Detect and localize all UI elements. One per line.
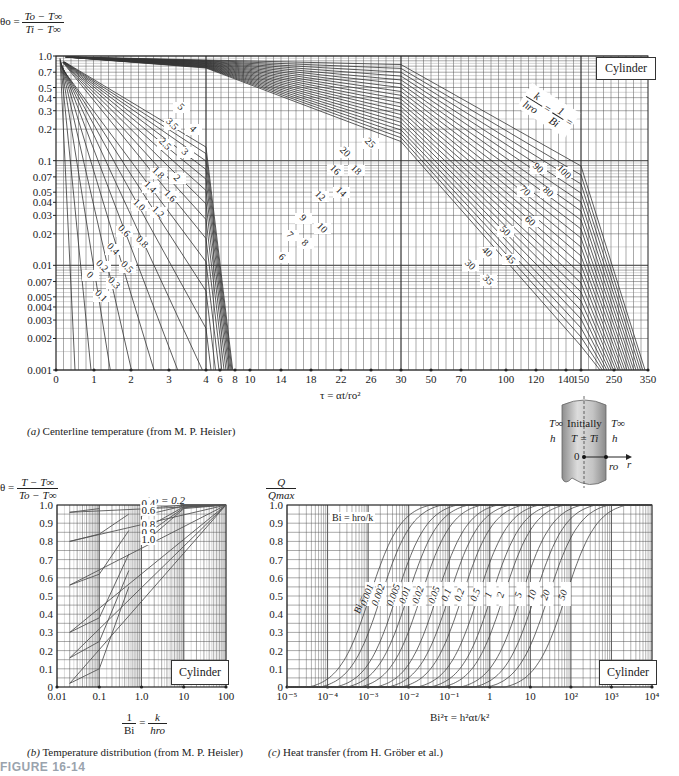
panel-c-bi-note: Bi = hro/k: [330, 512, 375, 523]
diagram-left-h: h: [550, 432, 556, 444]
figure-label: FIGURE 16-14: [0, 760, 85, 774]
panel-c-caption: (c) Heat transfer (from H. Gröber et al.…: [268, 746, 443, 758]
panel-b-caption-prefix: (b): [27, 746, 40, 758]
panel-c-ylabel-den: Qmax: [266, 489, 296, 501]
diagram-initially: Initially: [567, 417, 602, 429]
cylinder-diagram: [0, 0, 679, 776]
panel-b-caption: (b) Temperature distribution (from M. P.…: [27, 746, 243, 758]
origin-point: [582, 455, 586, 459]
panel-c-caption-title: Heat transfer (from H. Gröber et al.): [283, 746, 443, 758]
diagram-radius: ro: [609, 460, 618, 472]
panel-c-ylabel-num: Q: [266, 476, 296, 489]
diagram-origin: 0: [574, 450, 580, 462]
panel-b-xlabel-den: Bi: [122, 724, 136, 736]
panel-b-xlabel-den2: hro: [148, 724, 167, 736]
panel-b-xlabel-num2: k: [148, 711, 167, 724]
panel-c-caption-prefix: (c): [268, 746, 280, 758]
panel-b-xlabel: 1Bi = khro: [122, 711, 167, 736]
panel-c-legend-box: Cylinder: [599, 660, 657, 685]
diagram-r-axis: r: [627, 458, 631, 470]
diagram-right-T: T∞: [611, 417, 625, 429]
panel-b-ylabel-num: T − T∞: [17, 476, 59, 489]
panel-b-xlabel-eq: =: [139, 716, 145, 728]
panel-b-ylabel-den: To − T∞: [17, 489, 59, 501]
radius-point: [604, 455, 608, 459]
panel-c-xlabel: Bi²τ = h²αt/k²: [430, 711, 489, 723]
diagram-right-h: h: [612, 432, 618, 444]
diagram-T-equals-Ti: T = Ti: [571, 432, 598, 444]
panel-b-caption-title: Temperature distribution (from M. P. Hei…: [42, 746, 243, 758]
panel-b-ylabel-lhs: θ =: [0, 481, 14, 493]
panel-b-xlabel-num: 1: [122, 711, 136, 724]
panel-b-legend-box: Cylinder: [171, 660, 229, 685]
diagram-left-T: T∞: [549, 417, 563, 429]
panel-c-ylabel: Q Qmax: [266, 476, 296, 501]
panel-b-ylabel: θ = T − T∞ To − T∞: [0, 476, 58, 501]
